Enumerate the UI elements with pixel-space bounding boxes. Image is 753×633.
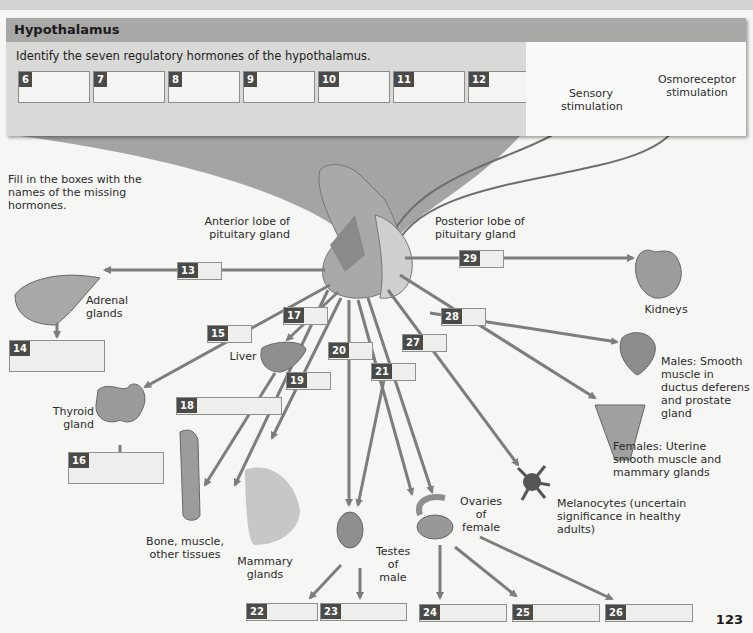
hormone-box-6[interactable]: 6 [18,71,90,103]
panel-title: Hypothalamus [14,22,120,37]
males-label: Males: Smooth muscle in ductus deferens … [661,355,753,420]
answer-box-16[interactable]: 16 [68,452,164,484]
answer-box-13[interactable]: 13 [177,262,222,280]
box-number: 17 [284,308,304,323]
box-number: 18 [177,398,197,413]
box-number: 11 [394,72,414,87]
adrenal-glands-label: Adrenal glands [86,294,136,320]
liver-label: Liver [226,350,260,363]
muscle-shape [180,430,200,520]
testes-label: Testes of male [376,545,410,584]
answer-box-14[interactable]: 14 [9,340,105,372]
answer-box-15[interactable]: 15 [207,325,252,343]
box-number: 20 [329,343,349,358]
hormone-box-8[interactable]: 8 [168,71,240,103]
box-number: 10 [319,72,339,87]
instruction-fill-boxes: Fill in the boxes with the names of the … [8,173,178,212]
box-number: 22 [247,604,267,619]
box-number: 26 [606,605,626,620]
thyroid-shape [96,384,145,422]
answer-box-22[interactable]: 22 [246,603,318,621]
hormone-box-11[interactable]: 11 [393,71,465,103]
box-number: 23 [321,604,341,619]
answer-box-25[interactable]: 25 [512,604,600,622]
sensory-stimulation-label: Sensory stimulation [561,87,621,113]
answer-box-20[interactable]: 20 [328,342,373,360]
thyroid-label: Thyroid gland [46,405,94,431]
box-number: 14 [10,341,30,356]
ovary-shape [417,515,453,539]
box-number: 8 [169,72,182,87]
liver-shape [261,342,306,372]
hypothalamus-panel: Hypothalamus Identify the seven regulato… [6,18,746,136]
box-number: 6 [19,72,32,87]
answer-box-29[interactable]: 29 [459,250,504,268]
posterior-lobe-label: Posterior lobe of pituitary gland [435,215,545,241]
box-number: 15 [208,326,228,341]
hormone-box-9[interactable]: 9 [243,71,315,103]
box-number: 28 [442,309,462,324]
melanocytes-label: Melanocytes (uncertain significance in h… [557,497,687,536]
answer-box-17[interactable]: 17 [283,307,328,325]
ovaries-label: Ovaries of female [455,495,507,534]
box-number: 21 [372,364,392,379]
box-number: 9 [244,72,257,87]
box-number: 13 [178,263,198,278]
kidneys-label: Kidneys [636,303,696,316]
box-number: 25 [513,605,533,620]
prostate-shape [620,333,655,375]
answer-box-28[interactable]: 28 [441,308,486,326]
page-number: 123 [716,612,743,627]
box-number: 12 [469,72,489,87]
answer-box-18[interactable]: 18 [176,397,282,415]
answer-box-21[interactable]: 21 [371,363,416,381]
answer-box-27[interactable]: 27 [402,334,447,352]
panel-header: Hypothalamus [6,18,746,42]
testis-shape [337,512,363,548]
box-number: 7 [94,72,107,87]
kidney-shape [635,250,681,298]
hormone-box-7[interactable]: 7 [93,71,165,103]
box-number: 29 [460,251,480,266]
box-number: 24 [420,605,440,620]
hormone-box-10[interactable]: 10 [318,71,390,103]
mammary-shape [245,467,300,545]
females-label: Females: Uterine smooth muscle and mamma… [613,440,723,479]
mammary-glands-label: Mammary glands [236,555,294,581]
anterior-lobe-label: Anterior lobe of pituitary gland [200,215,290,241]
answer-box-24[interactable]: 24 [419,604,507,622]
box-number: 19 [287,373,307,388]
box-number: 27 [403,335,423,350]
osmoreceptor-label: Osmoreceptor stimulation [652,73,742,99]
panel-instruction: Identify the seven regulatory hormones o… [16,49,371,63]
answer-box-23[interactable]: 23 [320,603,407,621]
answer-box-26[interactable]: 26 [605,604,693,622]
bone-muscle-label: Bone, muscle, other tissues [145,535,225,561]
answer-box-19[interactable]: 19 [286,372,331,390]
box-number: 16 [69,453,89,468]
